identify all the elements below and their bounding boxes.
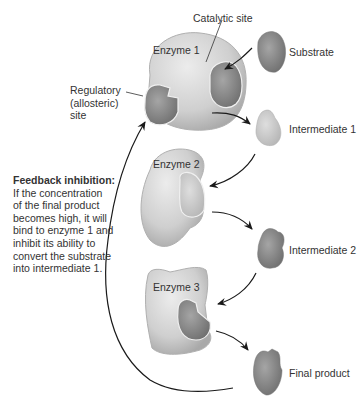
catalytic-site-label: Catalytic site	[193, 12, 253, 25]
note-line: If the concentration	[13, 187, 143, 200]
regulatory-site-label-line-1: Regulatory	[70, 84, 121, 97]
regulatory-site-label: Regulatory (allosteric) site	[70, 84, 121, 122]
regulatory-site-label-line-2: (allosteric)	[70, 97, 121, 110]
enzyme-2-label: Enzyme 2	[153, 158, 200, 170]
note-line: becomes high, it will	[13, 212, 143, 225]
substrate-molecule	[258, 32, 286, 73]
arrow-enzyme2-to-intermediate2	[212, 212, 252, 229]
intermediate-2-label: Intermediate 2	[289, 244, 356, 257]
regulatory-site-label-line-3: site	[70, 109, 121, 122]
final-product-molecule	[253, 349, 282, 395]
note-line: into intermediate 1.	[13, 262, 143, 275]
note-line: inhibit its ability to	[13, 237, 143, 250]
final-product-label: Final product	[289, 367, 350, 380]
note-line: convert the substrate	[13, 250, 143, 263]
arrow-intermediate1-to-enzyme2	[210, 154, 255, 186]
note-line: bind to enzyme 1 and	[13, 224, 143, 237]
substrate-label: Substrate	[289, 46, 334, 59]
intermediate-1-label: Intermediate 1	[289, 123, 356, 136]
note-line: of the final product	[13, 199, 143, 212]
regulatory-site-pointer	[126, 92, 143, 96]
enzyme-3-label: Enzyme 3	[153, 281, 200, 293]
intermediate-2-molecule	[258, 229, 284, 269]
feedback-inhibition-title: Feedback inhibition:	[13, 174, 143, 187]
arrow-enzyme3-to-final-product	[216, 331, 248, 350]
feedback-inhibition-note: Feedback inhibition: If the concentratio…	[13, 174, 143, 275]
intermediate-1-molecule	[256, 110, 281, 146]
arrow-intermediate2-to-enzyme3	[218, 273, 256, 304]
enzyme-1-label: Enzyme 1	[153, 44, 200, 56]
